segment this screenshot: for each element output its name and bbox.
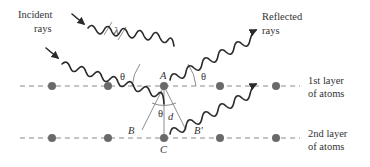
atom <box>48 134 56 142</box>
layer-1-label-2: of atoms <box>308 88 344 99</box>
reflected-label-1: Reflected <box>262 11 303 22</box>
incident-arrow-2 <box>46 48 58 58</box>
reflected-ray-2 <box>170 84 256 134</box>
point-c-label: C <box>160 144 168 155</box>
theta-arc-incident <box>132 64 140 86</box>
incident-arrow-1 <box>72 14 84 24</box>
incident-ray-1 <box>88 25 174 46</box>
atom-c <box>160 134 168 142</box>
point-a-label: A <box>159 70 167 81</box>
layer-2-label-2: of atoms <box>308 141 344 152</box>
reflected-label-2: rays <box>262 25 280 36</box>
incident-ray-2 <box>62 62 164 104</box>
layer-2-label-1: 2nd layer <box>308 128 348 139</box>
atom <box>104 134 112 142</box>
reflected-ray-1 <box>170 30 256 80</box>
atom <box>216 134 224 142</box>
incident-label-2: rays <box>34 23 52 34</box>
wavelength-label: λ <box>113 25 119 36</box>
atom <box>216 82 224 90</box>
atom-a <box>160 82 168 90</box>
line-a-bprime <box>164 86 186 130</box>
theta-label-reflected: θ <box>201 71 206 82</box>
atom <box>104 82 112 90</box>
layer-1-label-1: 1st layer <box>308 75 344 86</box>
atom <box>48 82 56 90</box>
bragg-diffraction-diagram: Incident rays Reflected rays 1st layer o… <box>0 0 370 167</box>
theta-label-incident: θ <box>120 71 125 82</box>
spacing-d-label: d <box>168 111 174 122</box>
point-bprime-label: B′ <box>194 125 203 136</box>
atom <box>272 82 280 90</box>
theta-label-lower: θ <box>158 108 163 119</box>
point-b-label: B <box>128 125 135 136</box>
atom <box>272 134 280 142</box>
incident-label-1: Incident <box>18 9 52 20</box>
